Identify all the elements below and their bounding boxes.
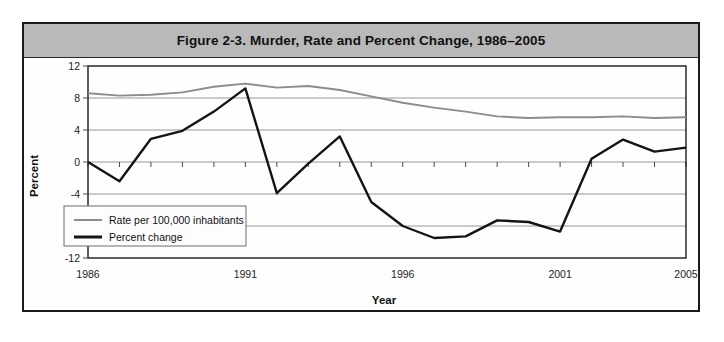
y-tick-label: -4 [71,188,80,200]
x-tick-label: 1991 [234,268,258,280]
line-chart: 12840-4-8-12 19861991199620012005 Rate p… [24,58,698,312]
x-tick-label: 1996 [391,268,415,280]
y-axis-label: Percent [28,155,40,197]
y-tick-label: 8 [74,92,80,104]
y-tick-label: 12 [68,60,80,72]
x-axis-tick-labels: 19861991199620012005 [76,268,698,280]
x-axis-label: Year [372,294,397,306]
chart-legend: Rate per 100,000 inhabitantsPercent chan… [64,206,246,246]
plot-area: 12840-4-8-12 19861991199620012005 Rate p… [24,58,698,314]
legend-label: Percent change [109,231,183,243]
page-title: Figure 2-3. Murder, Rate and Percent Cha… [177,33,546,48]
figure-title-banner: Figure 2-3. Murder, Rate and Percent Cha… [24,24,698,58]
x-tick-label: 2001 [548,268,572,280]
y-tick-label: 4 [74,124,80,136]
y-tick-label: 0 [74,156,80,168]
series-rate-line [88,84,686,118]
x-tick-label: 1986 [76,268,100,280]
figure-container: Figure 2-3. Murder, Rate and Percent Cha… [22,22,700,312]
legend-label: Rate per 100,000 inhabitants [109,214,244,226]
x-tick-label: 2005 [674,268,698,280]
y-tick-label: -12 [65,252,80,264]
tickmarks-group [88,162,686,167]
